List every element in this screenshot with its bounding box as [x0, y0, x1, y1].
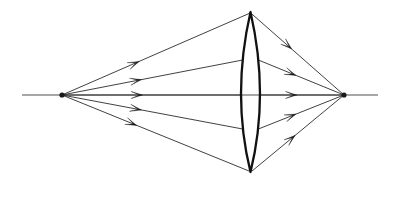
ray-diagram-canvas	[0, 0, 399, 197]
focus-point-marker	[341, 92, 346, 97]
source-point-marker	[59, 92, 64, 97]
ray-diagram-figure	[0, 0, 399, 197]
